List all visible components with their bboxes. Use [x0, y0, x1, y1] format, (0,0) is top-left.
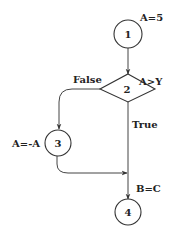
edge-2-to-3-false	[59, 89, 100, 129]
edge-label-true: True	[132, 119, 158, 130]
node-3-annotation: A=-A	[11, 138, 40, 149]
node-4-annotation: B=C	[136, 183, 161, 194]
node-1: 1 A=5	[114, 12, 163, 48]
node-2: 2 A>Y	[100, 74, 163, 102]
node-3-id: 3	[55, 138, 62, 149]
control-flow-diagram: 1 A=5 2 A>Y False True 3 A=-A 4 B=C	[0, 0, 175, 231]
node-4-id: 4	[125, 207, 132, 218]
node-2-annotation: A>Y	[138, 76, 163, 87]
edge-3-to-4	[57, 156, 127, 173]
node-4: 4 B=C	[115, 183, 161, 225]
node-2-id: 2	[124, 84, 131, 95]
edge-label-false: False	[73, 74, 102, 85]
node-1-id: 1	[125, 29, 132, 40]
node-3: 3 A=-A	[11, 130, 71, 156]
node-1-annotation: A=5	[139, 12, 163, 23]
